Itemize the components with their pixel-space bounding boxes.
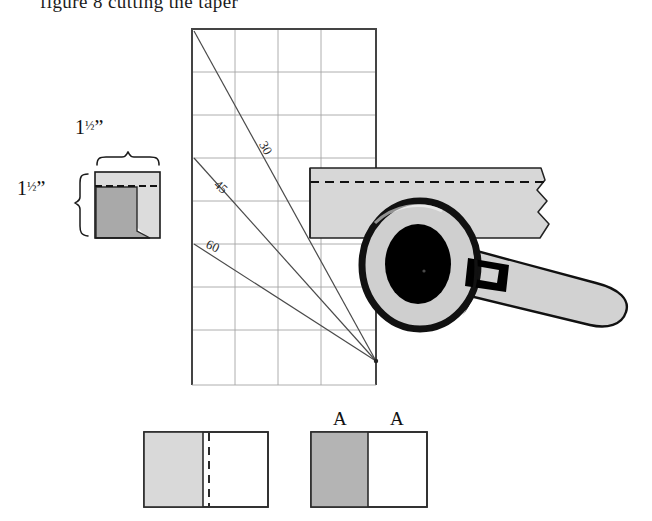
wrench-hole-center-dot <box>422 269 425 272</box>
illustration-svg: 30 45 60 <box>0 0 652 521</box>
figure-canvas: figure 8 cutting the taper 1½” 1½” A A <box>0 0 652 521</box>
left-board-shaded-half <box>144 432 203 507</box>
detail-callout-group <box>75 152 160 238</box>
brace-left-icon <box>75 174 88 236</box>
wrench-bolt-hole <box>385 224 451 304</box>
left-board-group <box>144 432 268 507</box>
brace-top-icon <box>97 152 159 165</box>
right-board-shaded-half <box>311 432 368 507</box>
right-board-group <box>311 432 427 507</box>
angle-apex-point <box>374 359 378 363</box>
